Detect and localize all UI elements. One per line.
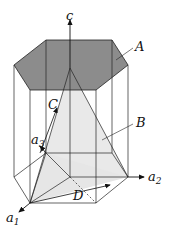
- label-a: A: [134, 39, 144, 54]
- label-a3: a3: [31, 132, 45, 149]
- label-c-direction: C: [48, 97, 58, 112]
- label-c: c: [66, 8, 74, 23]
- label-a2: a2: [148, 169, 162, 186]
- label-d-direction: D: [72, 188, 84, 203]
- hexagonal-cell-diagram: c A B C D a1 a2 a3: [0, 0, 171, 235]
- plane-a: [14, 40, 128, 90]
- a1-axis: [19, 203, 30, 212]
- label-b: B: [135, 115, 146, 130]
- label-a1: a1: [6, 210, 20, 227]
